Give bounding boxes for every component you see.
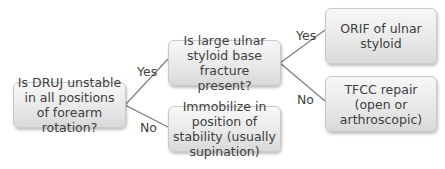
immobilize-node: Immobilize in position of stability (usu…: [168, 106, 281, 152]
orif-label: ORIF of ulnar styloid: [329, 21, 433, 51]
edge-label-root-no: No: [140, 121, 157, 135]
edge-label-fracture-yes: Yes: [296, 29, 316, 43]
orif-node: ORIF of ulnar styloid: [325, 8, 437, 64]
tfcc-node: TFCC repair (open or arthroscopic): [325, 76, 437, 132]
root-question-node: Is DRUJ unstable in all positions of for…: [13, 82, 126, 128]
fracture-question-node: Is large ulnar styloid base fracture pre…: [168, 40, 281, 86]
root-question-label: Is DRUJ unstable in all positions of for…: [17, 75, 122, 135]
immobilize-label: Immobilize in position of stability (usu…: [172, 99, 277, 159]
fracture-question-label: Is large ulnar styloid base fracture pre…: [172, 33, 277, 93]
edge-label-fracture-no: No: [297, 93, 314, 107]
edge-label-root-yes: Yes: [137, 65, 157, 79]
tfcc-label: TFCC repair (open or arthroscopic): [329, 82, 433, 127]
